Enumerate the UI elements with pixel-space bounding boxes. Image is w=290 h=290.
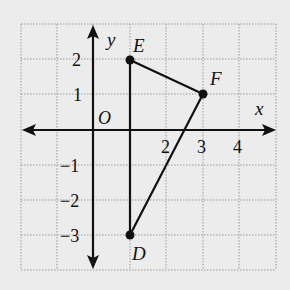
point-E [126,56,135,65]
x-axis [22,124,276,136]
x-axis-label: x [254,98,264,119]
point-F [199,90,208,99]
origin-label: O [98,108,111,128]
x-tick-label-2: 2 [161,137,170,157]
segment-EF [130,60,203,94]
y-tick-label-1: 1 [73,85,82,105]
coordinate-plane: y x O E F D 2 3 4 2 1 −1 −2 −3 [0,0,290,290]
y-tick-label-neg1: −1 [60,156,79,176]
coordinate-plane-figure: y x O E F D 2 3 4 2 1 −1 −2 −3 [0,0,290,290]
point-D [126,231,135,240]
y-axis-label: y [105,29,116,50]
point-D-label: D [131,243,146,264]
y-axis [87,25,99,269]
y-tick-label-neg3: −3 [60,226,79,246]
y-tick-label-neg2: −2 [60,191,79,211]
point-F-label: F [209,68,222,89]
y-tick-label-2: 2 [72,50,81,70]
point-E-label: E [132,35,145,56]
x-tick-label-3: 3 [197,137,206,157]
x-tick-label-4: 4 [233,137,242,157]
